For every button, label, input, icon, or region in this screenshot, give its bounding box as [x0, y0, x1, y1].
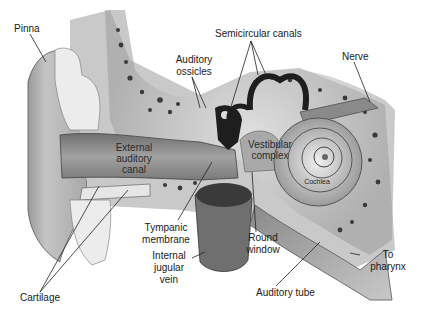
label-auditory-ossicles-line1: Auditory [174, 54, 214, 65]
label-nerve: Nerve [342, 51, 369, 62]
label-tympanic-membrane-line1: Tympanic [142, 222, 190, 233]
lower-fatty-tissue [70, 200, 111, 265]
label-auditory-tube: Auditory tube [256, 287, 315, 298]
ear-anatomy-diagram: Pinna Auditory ossicles Semicircular can… [0, 0, 422, 315]
label-to-pharynx-line1: To [366, 249, 410, 260]
ear-illustration [0, 0, 422, 315]
label-internal-jugular-vein-line1: Internal [146, 250, 192, 261]
label-internal-jugular-vein-line2: jugular [146, 262, 192, 273]
label-round-window-line1: Round [245, 232, 281, 243]
label-external-auditory-canal-line2: auditory [111, 153, 157, 164]
label-internal-jugular-vein-line3: vein [146, 274, 192, 285]
label-pinna: Pinna [14, 23, 40, 34]
label-cochlea: Cochlea [302, 176, 332, 187]
label-vestibular-complex-line2: complex [244, 150, 296, 161]
label-vestibular-complex-line1: Vestibular [244, 139, 296, 150]
label-round-window-line2: window [245, 244, 281, 255]
label-semicircular-canals: Semicircular canals [215, 28, 302, 39]
label-to-pharynx-line2: pharynx [366, 261, 410, 272]
label-auditory-ossicles-line2: ossicles [174, 66, 214, 77]
label-tympanic-membrane-line2: membrane [142, 234, 190, 245]
cochlea-shape [274, 118, 362, 206]
label-external-auditory-canal-line3: canal [111, 164, 157, 175]
label-external-auditory-canal-line1: External [111, 142, 157, 153]
label-cartilage: Cartilage [20, 292, 60, 303]
